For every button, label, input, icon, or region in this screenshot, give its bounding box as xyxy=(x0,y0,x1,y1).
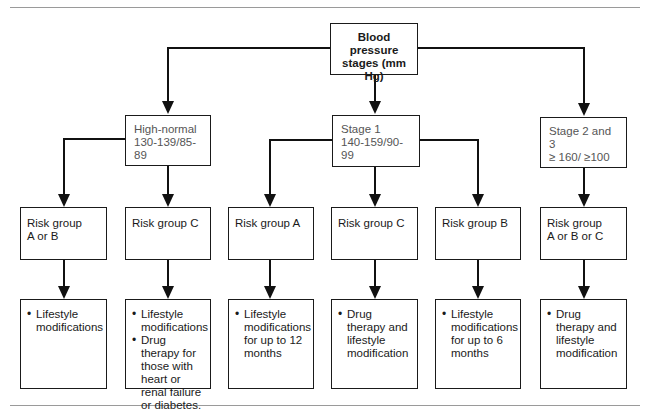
risk-group-line1: Risk group C xyxy=(132,217,204,230)
action-item: Drug therapy and lifestyle modification xyxy=(338,308,411,360)
action-box: Drug therapy and lifestyle modification xyxy=(331,299,418,389)
stage-range: 130-139/85-89 xyxy=(134,136,202,162)
stage-1: Stage 1 140-159/90-99 xyxy=(332,115,420,167)
stage-name: Stage 2 and 3 xyxy=(549,125,618,151)
stage-range: ≥ 160/ ≥100 xyxy=(549,151,618,164)
risk-group-box: Risk group A or B xyxy=(20,207,107,260)
action-box: Drug therapy and lifestyle modification xyxy=(540,299,627,389)
action-item: Lifestyle modifications for up to 6 mont… xyxy=(442,308,514,360)
stage-high-normal: High-normal 130-139/85-89 xyxy=(125,115,211,166)
action-item: Lifestyle modifications xyxy=(27,308,100,334)
risk-group-line1: Risk group A xyxy=(235,217,307,230)
root-title-line2: stages (mm Hg) xyxy=(337,57,411,83)
stage-2-and-3: Stage 2 and 3 ≥ 160/ ≥100 xyxy=(540,117,627,168)
action-box: Lifestyle modifications Drug therapy for… xyxy=(125,299,211,389)
risk-group-line2: A or B or C xyxy=(547,230,620,243)
risk-group-box: Risk group A or B or C xyxy=(540,207,627,260)
action-box: Lifestyle modifications xyxy=(20,299,107,389)
risk-group-line1: Risk group C xyxy=(338,217,411,230)
risk-group-box: Risk group A xyxy=(228,207,314,260)
action-box: Lifestyle modifications for up to 12 mon… xyxy=(228,299,314,389)
risk-group-box: Risk group C xyxy=(331,207,418,260)
risk-group-line2: A or B xyxy=(27,230,100,243)
action-item: Drug therapy and lifestyle modification xyxy=(547,308,620,360)
risk-group-line1: Risk group xyxy=(27,217,100,230)
action-item: Lifestyle modifications for up to 12 mon… xyxy=(235,308,307,360)
root-title-line1: Blood pressure xyxy=(337,31,411,57)
root-node: Blood pressure stages (mm Hg) xyxy=(330,23,418,75)
action-box: Lifestyle modifications for up to 6 mont… xyxy=(435,299,521,389)
action-item: Drug therapy for those with heart or ren… xyxy=(132,334,204,412)
risk-group-line1: Risk group xyxy=(547,217,620,230)
stage-name: Stage 1 xyxy=(341,123,411,136)
risk-group-line1: Risk group B xyxy=(442,217,514,230)
stage-range: 140-159/90-99 xyxy=(341,136,411,162)
action-item: Lifestyle modifications xyxy=(132,308,204,334)
risk-group-box: Risk group C xyxy=(125,207,211,260)
risk-group-box: Risk group B xyxy=(435,207,521,260)
stage-name: High-normal xyxy=(134,123,202,136)
